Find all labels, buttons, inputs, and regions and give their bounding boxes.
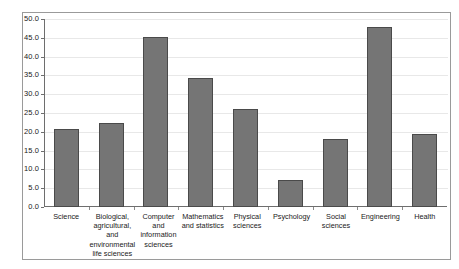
x-axis-tick-mark [178,207,179,210]
bar[interactable] [54,129,79,207]
bar-group [44,19,447,207]
x-axis-tick-marks [44,207,447,211]
y-axis-tick-label: 30.0 [5,90,39,98]
x-axis-category-label: Psychology [269,212,313,221]
x-axis-tick-mark [313,207,314,210]
y-axis-tick-label: 50.0 [5,15,39,23]
y-axis-tick-label: 45.0 [5,34,39,42]
x-axis-category-label: Computer and information sciences [136,212,180,249]
x-tick-cell [223,207,268,211]
bar-slot [402,19,447,207]
x-tick-cell [44,207,89,211]
x-tick-cell [268,207,313,211]
x-axis-category-label: Science [44,212,88,221]
y-axis-tick-label: 25.0 [5,109,39,117]
bar[interactable] [412,134,437,207]
y-axis-tick-label: 5.0 [5,184,39,192]
bar[interactable] [143,37,168,207]
x-tick-cell [357,207,402,211]
x-tick-cell [402,207,447,211]
x-axis-tick-mark [402,207,403,210]
bar[interactable] [323,139,348,207]
bar-slot [178,19,223,207]
bar-slot [44,19,89,207]
x-axis-category-labels: ScienceBiological, agricultural, and env… [44,212,447,258]
y-axis-tick-label: 0.0 [5,203,39,211]
x-tick-cell [134,207,179,211]
x-axis-tick-mark [89,207,90,210]
x-tick-cell [313,207,358,211]
y-axis-tick-label: 15.0 [5,147,39,155]
y-axis-tick-label: 10.0 [5,165,39,173]
x-axis-category-label: Physical sciences [225,212,269,230]
bar[interactable] [99,123,124,207]
bar-chart: 0.05.010.015.020.025.030.035.040.045.050… [0,0,459,269]
bar[interactable] [278,180,303,207]
bar-slot [268,19,313,207]
x-tick-cell [89,207,134,211]
bar-slot [134,19,179,207]
x-axis-tick-mark [134,207,135,210]
bar[interactable] [233,109,258,207]
y-axis-tick-label: 20.0 [5,128,39,136]
x-axis-tick-mark [223,207,224,210]
x-axis-category-label: Mathematics and statistics [181,212,225,230]
bar-slot [313,19,358,207]
bar-slot [223,19,268,207]
x-axis-category-label: Engineering [358,212,402,221]
bar[interactable] [367,27,392,207]
bar-slot [357,19,402,207]
bar-slot [89,19,134,207]
x-axis-tick-mark [357,207,358,210]
x-axis-category-label: Social sciences [314,212,358,230]
x-axis-category-label: Health [403,212,447,221]
x-axis-category-label: Biological, agricultural, and environmen… [88,212,136,258]
x-axis-tick-mark [268,207,269,210]
y-axis-tick-label: 35.0 [5,71,39,79]
y-axis-tick-label: 40.0 [5,53,39,61]
bar[interactable] [188,78,213,207]
x-tick-cell [178,207,223,211]
